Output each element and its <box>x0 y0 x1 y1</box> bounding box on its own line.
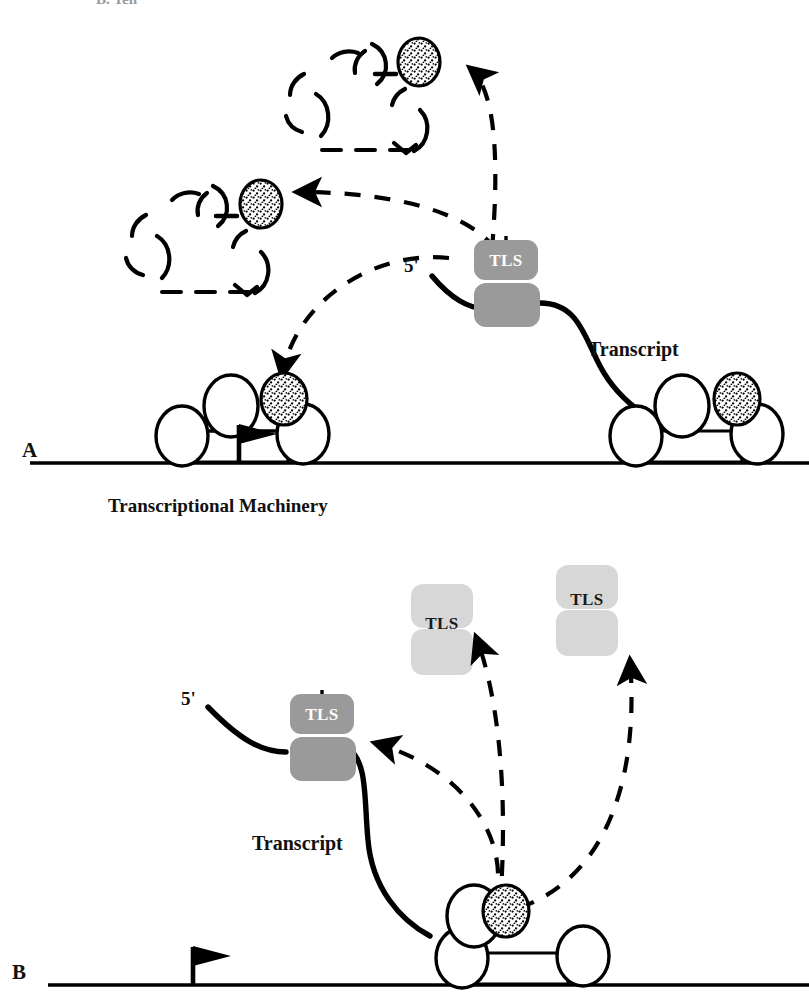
five-prime-label-a: 5' <box>404 256 419 275</box>
txn-b-stipple <box>483 885 529 937</box>
five-prime-label-b: 5' <box>181 689 196 708</box>
tls-free-b-right-body <box>556 610 618 656</box>
tls-bound-a[interactable]: TLS <box>474 240 540 327</box>
tls-free-b-right[interactable]: TLS <box>556 565 618 656</box>
arrow-a-to-left-complex <box>297 192 496 250</box>
tls-free-b-left-label: TLS <box>425 614 459 633</box>
txn-complex-b[interactable] <box>193 885 609 988</box>
txn-complex-a-right[interactable] <box>610 373 783 466</box>
txn-a-right-sub2 <box>655 375 709 437</box>
transcript-label-b: Transcript <box>252 833 343 853</box>
tls-bound-b[interactable]: TLS <box>290 694 356 781</box>
txn-b-sub3 <box>557 926 609 986</box>
arrow-b-stipple-to-tls-bound <box>375 743 498 903</box>
transcript-tail-b <box>348 748 430 936</box>
tls-free-b-left-body <box>411 629 473 675</box>
tls-bound-a-body <box>474 283 540 327</box>
tls-bound-b-body <box>290 737 356 781</box>
tls-free-b-right-label: TLS <box>570 590 604 609</box>
tls-bound-b-label: TLS <box>305 705 339 724</box>
arrow-a-to-txn-stipple <box>282 257 449 376</box>
transcript-5prime-b <box>208 707 286 752</box>
txn-a-right-sub1 <box>610 406 662 466</box>
promoter-flag-b <box>193 946 231 985</box>
txn-complex-a-left[interactable] <box>156 373 329 466</box>
panel-letter-b: B <box>12 962 27 983</box>
stipple-ellipse-top <box>398 38 440 86</box>
stipple-ellipse-left <box>240 180 282 228</box>
txn-a-left-stipple <box>261 373 307 425</box>
txn-a-left-sub1 <box>156 406 208 466</box>
arrow-a-to-top-complex <box>470 68 495 250</box>
panel-b: TLS TLS TLS <box>48 565 809 988</box>
transcriptional-machinery-label: Transcriptional Machinery <box>108 496 328 515</box>
panel-a: TLS <box>30 38 809 466</box>
transcript-label-a: Transcript <box>588 339 679 359</box>
tls-free-b-left[interactable]: TLS <box>411 584 473 675</box>
txn-a-right-stipple <box>714 373 760 425</box>
tls-bound-a-label: TLS <box>489 251 523 270</box>
arrow-b-stipple-to-tls-free-right <box>519 660 632 908</box>
panel-letter-a: A <box>22 440 38 461</box>
